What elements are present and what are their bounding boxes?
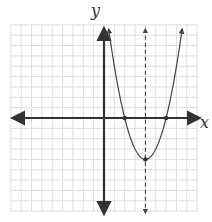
y-axis-label: y bbox=[90, 1, 101, 20]
point-vertex bbox=[143, 157, 147, 161]
point-root-right bbox=[164, 116, 168, 120]
parabola-graph: y x bbox=[0, 0, 212, 222]
axes-group bbox=[13, 29, 199, 213]
x-axis-label: x bbox=[200, 113, 209, 132]
point-root-left bbox=[123, 116, 127, 120]
